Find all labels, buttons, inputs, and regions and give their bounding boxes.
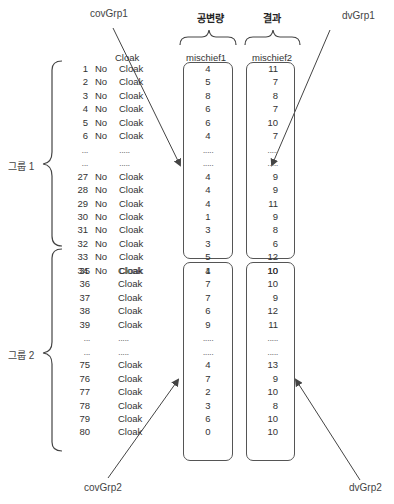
row-mischief1-value: 4 [193,359,223,370]
row-cloak-value: Cloak [118,265,142,276]
group1-label: 그룹 1 [8,158,34,173]
row-mischief1-value: 3 [193,400,223,411]
row-index: 80 [68,426,90,437]
row-mischief1-value: 4 [193,171,223,182]
row-cloak-value: Cloak [118,305,142,316]
row-mischief1-value: 6 [193,305,223,316]
row-index: 36 [68,278,90,289]
row-index: 1 [66,63,88,74]
row-mischief1-value: 6 [193,117,223,128]
row-cloak-value: Cloak [119,184,143,195]
dv-grp1-label: dvGrp1 [342,10,375,21]
row-cloak-value: Cloak [118,373,142,384]
cov-grp1-label: covGrp1 [90,8,128,19]
row-mischief2-value: ..... [256,157,278,168]
row-mischief2-value: 11 [256,63,278,74]
row-cloak-value: Cloak [119,238,143,249]
row-mischief2-value: 8 [256,400,278,411]
row-mischief1-value: 4 [193,198,223,209]
row-cloak-value: Cloak [118,426,142,437]
row-index: 78 [68,400,90,411]
outcome-brace [245,30,300,45]
row-mischief1-value: 1 [193,265,223,276]
row-cloak-value: Cloak [119,198,143,209]
row-cloak-value: ..... [119,157,130,168]
covariate-header: 공변량 [197,10,224,25]
row-index: 2 [66,76,88,87]
row-mischief2-value: 8 [256,90,278,101]
row-cloak-value: Cloak [119,224,143,235]
row-mischief1-value: 5 [193,251,223,262]
row-cloak-value: Cloak [118,359,142,370]
row-index: ... [66,157,88,168]
row-no-value: No [95,63,107,74]
row-index: 31 [66,224,88,235]
group2-brace [43,249,62,451]
row-cloak-value: Cloak [119,63,143,74]
row-mischief2-value: ..... [256,332,278,343]
row-index: ... [68,346,90,357]
row-cloak-value: Cloak [119,76,143,87]
row-mischief1-value: 6 [193,103,223,114]
cov-grp2-label: covGrp2 [84,482,122,493]
row-cloak-value: Cloak [118,278,142,289]
row-mischief1-value: 7 [193,373,223,384]
row-mischief2-value: 11 [256,319,278,330]
row-no-value: No [95,90,107,101]
row-cloak-value: Cloak [119,211,143,222]
row-index: 27 [66,171,88,182]
row-mischief1-value: ..... [193,144,223,155]
row-mischief1-value: 8 [193,90,223,101]
covariate-brace [180,30,236,45]
row-no-value: No [95,211,107,222]
row-mischief1-value: 2 [193,386,223,397]
row-no-value: No [95,103,107,114]
row-index: 6 [66,130,88,141]
row-index: ... [66,144,88,155]
row-mischief1-value: 3 [193,238,223,249]
row-no-value: No [95,184,107,195]
row-mischief1-value: 6 [193,413,223,424]
row-mischief1-value: 7 [193,292,223,303]
row-mischief2-value: 11 [256,198,278,209]
row-mischief1-value: 9 [193,319,223,330]
row-mischief2-value: 9 [256,373,278,384]
row-index: 3 [66,90,88,101]
outcome-header: 결과 [263,10,281,25]
group2-label: 그룹 2 [8,347,34,362]
row-mischief1-value: 7 [193,278,223,289]
row-no-value: No [95,198,107,209]
row-index: 33 [66,251,88,262]
row-mischief2-value: 10 [256,265,278,276]
row-mischief2-value: 9 [256,171,278,182]
row-mischief1-value: ..... [193,332,223,343]
cloak-column-header: Cloak [115,52,139,63]
row-no-value: No [95,224,107,235]
row-mischief2-value: 10 [256,413,278,424]
row-mischief2-value: 12 [256,251,278,262]
group1-brace [43,61,62,246]
row-index: ... [68,332,90,343]
row-mischief1-value: 4 [193,184,223,195]
row-no-value: No [95,117,107,128]
row-no-value: No [95,171,107,182]
row-mischief2-value: 12 [256,305,278,316]
row-index: 39 [68,319,90,330]
row-mischief1-value: 5 [193,76,223,87]
row-mischief2-value: 9 [256,211,278,222]
row-cloak-value: Cloak [119,251,143,262]
row-mischief2-value: 10 [256,426,278,437]
row-mischief2-value: 7 [256,76,278,87]
row-index: 29 [66,198,88,209]
row-mischief1-value: ..... [193,157,223,168]
row-index: 32 [66,238,88,249]
row-cloak-value: Cloak [118,386,142,397]
row-mischief1-value: 4 [193,130,223,141]
row-mischief1-value: ..... [193,346,223,357]
row-no-value: No [95,238,107,249]
row-mischief1-value: 1 [193,211,223,222]
row-index: 75 [68,359,90,370]
row-no-value: No [95,76,107,87]
row-index: 77 [68,386,90,397]
row-index: 79 [68,413,90,424]
